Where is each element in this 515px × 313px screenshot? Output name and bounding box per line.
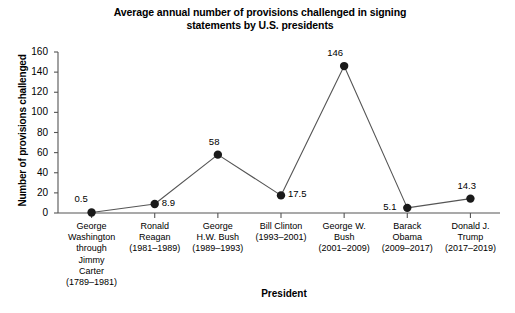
data-point-marker	[214, 150, 222, 158]
data-series-line	[92, 66, 471, 212]
line-chart: Average annual number of provisions chal…	[0, 0, 515, 313]
data-point-markers	[87, 62, 474, 217]
data-point-marker	[87, 208, 95, 216]
plot-area	[0, 0, 515, 313]
data-point-marker	[151, 200, 159, 208]
data-point-marker	[340, 62, 348, 70]
data-point-marker	[466, 194, 474, 202]
data-point-marker	[403, 204, 411, 212]
data-point-marker	[277, 191, 285, 199]
